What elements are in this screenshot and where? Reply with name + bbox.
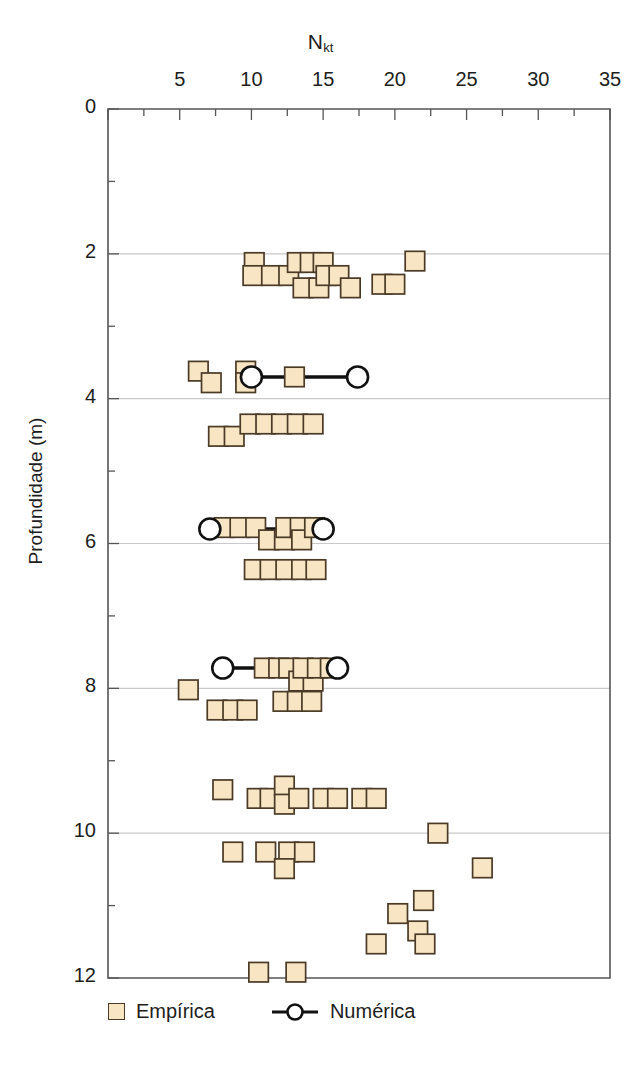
data-point-numerica	[212, 658, 233, 679]
data-point-numerica	[347, 366, 368, 387]
data-point-empirica	[295, 842, 315, 862]
data-point-empirica	[388, 904, 408, 924]
chart-figure: Nkt Profundidade (m) 5101520253035 02468…	[0, 0, 641, 1066]
data-point-empirica	[213, 780, 233, 800]
data-point-empirica	[306, 560, 326, 580]
data-point-empirica	[289, 789, 309, 809]
legend-entry-empirica: Empírica	[108, 1000, 215, 1023]
data-point-empirica	[237, 700, 257, 720]
legend-square-marker-icon	[108, 1003, 125, 1020]
data-point-empirica	[328, 789, 348, 809]
data-point-empirica	[414, 891, 434, 911]
data-point-empirica	[223, 842, 243, 862]
data-point-empirica	[286, 962, 306, 982]
data-point-empirica	[366, 934, 386, 954]
data-point-empirica	[243, 266, 263, 286]
data-point-numerica	[241, 366, 262, 387]
plot-area	[0, 0, 641, 1066]
legend-circle-line-marker-icon	[271, 1002, 319, 1022]
data-point-empirica	[256, 842, 276, 862]
data-point-empirica	[405, 251, 425, 271]
data-point-empirica	[341, 278, 361, 298]
legend-entry-numerica: Numérica	[271, 1000, 416, 1023]
data-point-empirica	[415, 934, 435, 954]
data-point-empirica	[302, 692, 322, 712]
legend-label-empirica: Empírica	[136, 1000, 215, 1023]
data-point-numerica	[199, 519, 220, 540]
data-point-empirica	[303, 414, 323, 434]
data-point-empirica	[249, 962, 269, 982]
legend-label-numerica: Numérica	[330, 1000, 416, 1023]
data-point-numerica	[327, 658, 348, 679]
data-point-empirica	[385, 274, 405, 294]
data-point-numerica	[313, 519, 334, 540]
data-point-empirica	[202, 373, 222, 393]
data-point-empirica	[428, 823, 448, 843]
data-point-empirica	[179, 680, 199, 700]
data-point-empirica	[285, 367, 305, 387]
data-point-empirica	[366, 789, 386, 809]
chart-legend: Empírica Numérica	[108, 1000, 415, 1023]
data-point-empirica	[473, 858, 493, 878]
data-point-empirica	[275, 859, 295, 879]
